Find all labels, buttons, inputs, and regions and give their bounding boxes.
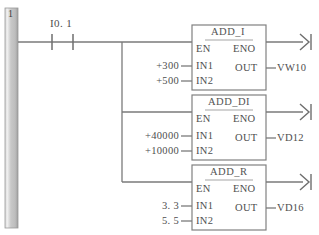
contact-label-i0-1: I0. 1 bbox=[50, 18, 72, 29]
ladder-diagram-canvas bbox=[0, 0, 319, 235]
block-3-title: ADD_R bbox=[210, 167, 248, 178]
block-3-pin-in1: IN1 bbox=[196, 201, 213, 212]
block-3-out-value[interactable]: VD16 bbox=[277, 203, 304, 214]
block-2-in2-value[interactable]: +10000 bbox=[111, 146, 179, 157]
block-2-pin-in1: IN1 bbox=[196, 131, 213, 142]
block-3-in1-value[interactable]: 3. 3 bbox=[121, 201, 179, 212]
block-2-title: ADD_DI bbox=[208, 97, 250, 108]
block-2-pin-out: OUT bbox=[235, 133, 257, 144]
block-1-in2-value[interactable]: +500 bbox=[121, 76, 179, 87]
block-1-pin-en: EN bbox=[196, 44, 211, 55]
block-3-pin-in2: IN2 bbox=[196, 216, 213, 227]
block-1-out-value[interactable]: VW10 bbox=[277, 63, 306, 74]
block-2-pin-eno: ENO bbox=[233, 114, 255, 125]
block-1-pin-eno: ENO bbox=[233, 44, 255, 55]
block-1-title: ADD_I bbox=[211, 27, 245, 38]
block-2-out-value[interactable]: VD12 bbox=[277, 133, 304, 144]
block-1-in1-value[interactable]: +300 bbox=[121, 61, 179, 72]
block-2-pin-en: EN bbox=[196, 114, 211, 125]
block-2-pin-in2: IN2 bbox=[196, 146, 213, 157]
network-number: 1 bbox=[8, 9, 13, 19]
block-1-pin-out: OUT bbox=[235, 63, 257, 74]
block-3-in2-value[interactable]: 5. 5 bbox=[121, 216, 179, 227]
block-3-pin-en: EN bbox=[196, 184, 211, 195]
block-3-pin-eno: ENO bbox=[233, 184, 255, 195]
block-1-pin-in2: IN2 bbox=[196, 76, 213, 87]
block-1-pin-in1: IN1 bbox=[196, 61, 213, 72]
block-3-pin-out: OUT bbox=[235, 203, 257, 214]
left-power-rail bbox=[5, 8, 18, 228]
block-2-in1-value[interactable]: +40000 bbox=[111, 131, 179, 142]
